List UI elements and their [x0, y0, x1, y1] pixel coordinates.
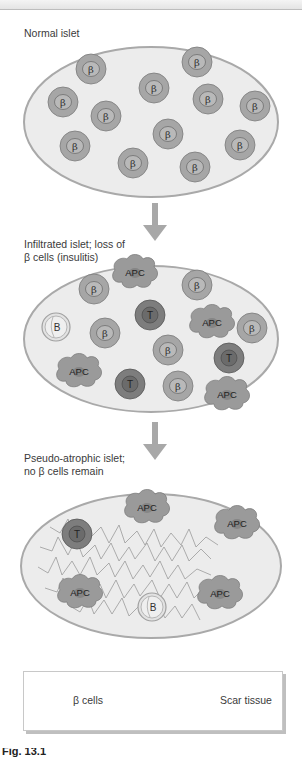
legend-box: β cells Scar tissue: [23, 671, 283, 731]
figure-caption: Fig. 13.1: [0, 748, 302, 757]
figure-caption-text: Fig. 13.1: [2, 748, 46, 757]
legend-scar-label: Scar tissue: [220, 694, 272, 706]
islet-diagram: β T APC B: [0, 0, 302, 757]
legend-beta-label: β cells: [73, 694, 103, 706]
